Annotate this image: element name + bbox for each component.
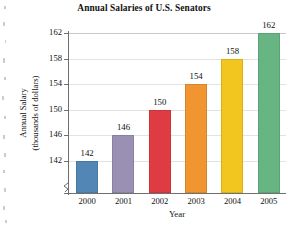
x-tick-label: 2002: [142, 196, 178, 206]
y-tick-label: 154: [38, 78, 62, 88]
bar: [221, 59, 243, 193]
bar: [76, 161, 98, 193]
y-tick-label: 150: [38, 104, 62, 114]
bar-slot: 142: [69, 33, 105, 193]
bar-slot: 150: [142, 33, 178, 193]
bar-value-label: 142: [69, 148, 105, 158]
bar: [258, 33, 280, 193]
bar-slot: 146: [105, 33, 141, 193]
y-axis-title-line1: Annual Salary: [18, 76, 30, 151]
bar: [149, 110, 171, 193]
y-tick-label: 158: [38, 53, 62, 63]
bar-slot: 158: [214, 33, 250, 193]
x-axis-ticks: 200020012002200320042005: [68, 196, 286, 210]
y-tick-label: 162: [38, 27, 62, 37]
scan-artifact-edge: [0, 0, 14, 229]
bar-slot: 154: [178, 33, 214, 193]
bar-value-label: 154: [178, 71, 214, 81]
bar: [185, 84, 207, 193]
x-axis-title: Year: [68, 209, 286, 219]
x-axis-line: [64, 193, 286, 194]
x-tick-label: 2000: [69, 196, 105, 206]
x-tick-label: 2005: [251, 196, 287, 206]
y-tick-label: 146: [38, 129, 62, 139]
bar-value-label: 162: [251, 20, 287, 30]
bar-slot: 162: [251, 33, 287, 193]
chart-title: Annual Salaries of U.S. Senators: [0, 3, 288, 13]
y-tick-label: 142: [38, 155, 62, 165]
bar: [112, 135, 134, 193]
bar-value-label: 150: [142, 97, 178, 107]
bar-value-label: 158: [214, 46, 250, 56]
x-tick-label: 2003: [178, 196, 214, 206]
chart-figure: Annual Salaries of U.S. Senators Annual …: [0, 0, 288, 229]
x-tick-label: 2004: [214, 196, 250, 206]
bar-value-label: 146: [105, 122, 141, 132]
x-tick-label: 2001: [105, 196, 141, 206]
bar-series: 142146150154158162: [68, 33, 286, 193]
